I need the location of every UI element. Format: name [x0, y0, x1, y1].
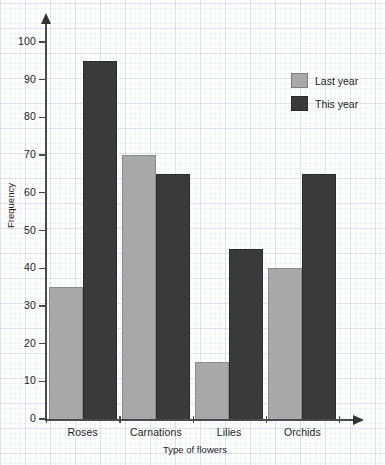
- y-axis-tick: [39, 381, 46, 382]
- x-axis-category-label: Lilies: [193, 426, 266, 438]
- y-axis-tick-label: 10: [0, 374, 36, 386]
- y-axis-tick: [39, 418, 46, 419]
- x-axis-category-label: Orchids: [266, 426, 339, 438]
- y-axis-title: Frequency: [5, 171, 16, 241]
- y-axis-tick-label: 40: [0, 261, 36, 273]
- bar-lilies-this-year: [229, 249, 263, 419]
- y-axis-tick: [39, 79, 46, 80]
- bar-orchids-last-year: [268, 268, 302, 419]
- y-axis-tick: [39, 41, 46, 42]
- bar-chart-figure: 0102030405060708090100 RosesCarnationsLi…: [0, 0, 385, 465]
- y-axis-tick-label: 80: [0, 110, 36, 122]
- legend-swatch-icon: [291, 73, 308, 88]
- x-axis-line: [45, 419, 354, 421]
- y-axis-tick: [39, 343, 46, 344]
- bar-carnations-last-year: [122, 155, 156, 419]
- x-axis-category-label: Carnations: [119, 426, 192, 438]
- bar-carnations-this-year: [156, 174, 190, 419]
- y-axis-tick: [39, 192, 46, 193]
- y-axis-tick: [39, 154, 46, 155]
- x-axis-title: Type of flowers: [45, 444, 345, 455]
- y-axis-tick-label: 100: [0, 35, 36, 47]
- y-axis-tick: [39, 230, 46, 231]
- y-axis-tick-label: 90: [0, 73, 36, 85]
- y-axis-tick-label: 20: [0, 337, 36, 349]
- y-axis-tick: [39, 305, 46, 306]
- y-axis-tick: [39, 268, 46, 269]
- bar-lilies-last-year: [195, 362, 229, 419]
- legend-item-label: This year: [315, 98, 358, 110]
- bar-roses-last-year: [49, 287, 83, 419]
- legend-swatch-icon: [291, 96, 308, 111]
- bar-roses-this-year: [83, 61, 117, 419]
- chart-legend: Last yearThis year: [291, 73, 358, 111]
- legend-item: This year: [291, 96, 358, 111]
- y-axis-tick: [39, 117, 46, 118]
- x-axis-category-label: Roses: [46, 426, 119, 438]
- bar-orchids-this-year: [302, 174, 336, 419]
- legend-item-label: Last year: [315, 75, 358, 87]
- y-axis-tick-label: 30: [0, 299, 36, 311]
- y-axis-tick-label: 0: [0, 412, 36, 424]
- legend-item: Last year: [291, 73, 358, 88]
- y-axis-tick-label: 70: [0, 148, 36, 160]
